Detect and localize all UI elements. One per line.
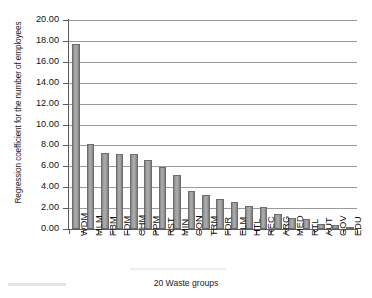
x-tick-label: RTL <box>311 219 320 237</box>
x-tick-label: AUT <box>325 217 334 236</box>
y-tick-label: 18.00 <box>36 36 59 45</box>
x-tick-label: ELM <box>239 217 248 236</box>
x-tick-label: TRM <box>210 216 219 236</box>
x-tick-label: FDM <box>123 216 132 236</box>
y-tick-label: 10.00 <box>36 120 59 129</box>
y-tick-label: 0.00 <box>41 224 59 233</box>
y-tick-label: 14.00 <box>36 78 59 87</box>
y-tick-label: 2.00 <box>41 203 59 212</box>
y-axis-title: Regression coefficient for the number of… <box>14 3 23 223</box>
x-tick-label: PPM <box>152 216 161 236</box>
x-tick-label: GOV <box>339 215 348 236</box>
y-tick-label: 16.00 <box>36 57 59 66</box>
x-tick-label: FBM <box>109 216 118 236</box>
x-tick-label: REC <box>267 216 276 236</box>
x-tick-label: RST <box>167 217 176 236</box>
y-tick-label: 4.00 <box>41 182 59 191</box>
x-tick-label: WDM <box>80 213 89 236</box>
x-tick-label: MIN <box>181 219 190 236</box>
chart-figure: Regression coefficient for the number of… <box>0 0 372 298</box>
scan-artifact <box>130 268 226 270</box>
x-tick-label: FDR <box>224 217 233 236</box>
y-tick-label: 12.00 <box>36 99 59 108</box>
plot-area <box>69 20 357 229</box>
x-tick-label: MED <box>296 215 305 236</box>
y-tick-label: 8.00 <box>41 140 59 149</box>
y-tick-label: 6.00 <box>41 161 59 170</box>
x-tick-mark <box>69 230 70 234</box>
x-tick-label: HTL <box>253 218 262 236</box>
scan-artifact <box>8 283 66 286</box>
x-tick-label: CON <box>195 215 204 236</box>
y-tick-label: 20.00 <box>36 15 59 24</box>
x-tick-label: MLM <box>95 215 104 236</box>
bar <box>72 44 80 229</box>
x-tick-label: CHM <box>138 215 147 236</box>
x-tick-label: ARG <box>282 216 291 236</box>
x-tick-label: EDU <box>354 216 363 236</box>
